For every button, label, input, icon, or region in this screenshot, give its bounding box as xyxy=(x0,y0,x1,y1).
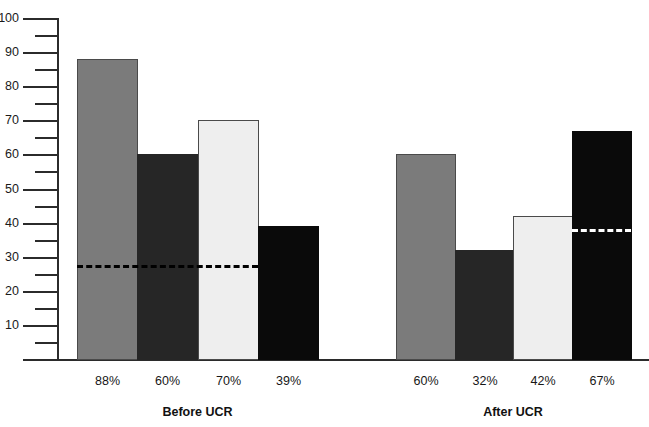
y-axis-minor-tick xyxy=(35,240,57,242)
y-axis-line xyxy=(57,18,59,361)
x-axis-category-label: 42% xyxy=(513,375,573,388)
y-axis-minor-tick xyxy=(35,206,57,208)
x-axis-category-label: 60% xyxy=(396,375,456,388)
bar xyxy=(455,250,515,360)
y-axis-minor-tick xyxy=(35,171,57,173)
y-axis-major-tick xyxy=(23,18,57,20)
x-axis-category-label: 88% xyxy=(77,375,138,388)
y-axis-minor-tick xyxy=(35,342,57,344)
y-axis-minor-tick xyxy=(35,103,57,105)
y-axis-minor-tick xyxy=(35,69,57,71)
y-axis-major-tick xyxy=(23,359,57,361)
bar xyxy=(258,226,319,360)
x-axis-category-label: 39% xyxy=(258,375,319,388)
y-axis-minor-tick xyxy=(35,274,57,276)
y-axis-tick-label: 30 xyxy=(0,251,19,264)
y-axis-major-tick xyxy=(23,86,57,88)
y-axis-tick-label: 80 xyxy=(0,80,19,93)
y-axis-tick-label: 10 xyxy=(0,319,19,332)
y-axis-major-tick xyxy=(23,257,57,259)
y-axis-major-tick xyxy=(23,52,57,54)
y-axis-tick-label: 20 xyxy=(0,285,19,298)
y-axis-major-tick xyxy=(23,291,57,293)
bar xyxy=(396,154,456,360)
bar xyxy=(513,216,573,360)
y-axis-tick-label: 90 xyxy=(0,46,19,59)
bar-chart: 10203040506070809010088%60%70%39%Before … xyxy=(0,0,649,427)
y-axis-major-tick xyxy=(23,120,57,122)
y-axis-minor-tick xyxy=(35,35,57,37)
reference-line xyxy=(77,265,258,268)
group-label: After UCR xyxy=(396,406,630,419)
y-axis-minor-tick xyxy=(35,137,57,139)
bar xyxy=(198,120,259,360)
reference-line xyxy=(572,229,631,232)
bar xyxy=(137,154,198,360)
y-axis-tick-label: 60 xyxy=(0,148,19,161)
y-axis-major-tick xyxy=(23,325,57,327)
x-axis-category-label: 67% xyxy=(572,375,632,388)
y-axis-minor-tick xyxy=(35,308,57,310)
group-label: Before UCR xyxy=(77,406,318,419)
y-axis-major-tick xyxy=(23,223,57,225)
y-axis-tick-label: 40 xyxy=(0,217,19,230)
bar xyxy=(572,131,632,360)
x-axis-category-label: 70% xyxy=(198,375,259,388)
x-axis-category-label: 32% xyxy=(455,375,515,388)
y-axis-tick-label: 50 xyxy=(0,183,19,196)
y-axis-major-tick xyxy=(23,189,57,191)
y-axis-major-tick xyxy=(23,154,57,156)
x-axis-category-label: 60% xyxy=(137,375,198,388)
y-axis-tick-label: 100 xyxy=(0,12,19,25)
bar xyxy=(77,59,138,360)
y-axis-tick-label: 70 xyxy=(0,114,19,127)
